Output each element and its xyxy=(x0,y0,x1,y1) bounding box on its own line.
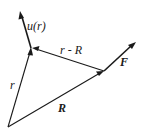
vector-diagram: u(r) r - R F r R xyxy=(0,0,143,134)
label-F: F xyxy=(119,55,128,69)
label-r-minus-R: r - R xyxy=(60,43,83,57)
label-R: R xyxy=(57,101,66,115)
label-u-r: u(r) xyxy=(27,19,46,33)
label-r: r xyxy=(10,78,15,92)
arrowhead-icon xyxy=(28,47,34,56)
